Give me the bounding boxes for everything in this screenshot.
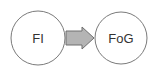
edge-fi-to-fog <box>66 27 94 49</box>
block-arrow-icon <box>66 27 94 49</box>
node-fi-label: FI <box>32 31 44 46</box>
diagram-canvas: FI FoG <box>0 0 154 68</box>
node-fog: FoG <box>95 12 147 64</box>
node-fi: FI <box>11 11 65 65</box>
node-fog-label: FoG <box>108 31 133 46</box>
